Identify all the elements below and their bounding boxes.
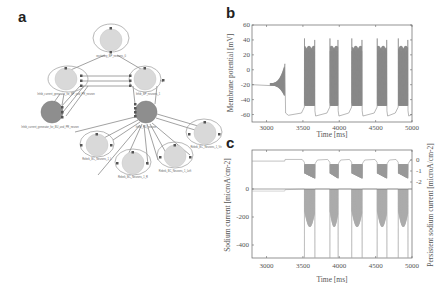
y-tick-label: -200	[236, 213, 249, 221]
x-tick-label: 3500	[296, 262, 311, 270]
y-tick-label: -400	[236, 241, 249, 249]
x-tick-label: 3000	[260, 124, 275, 132]
x-tick-label: 5000	[405, 262, 420, 270]
x-tick-label: 5000	[405, 124, 420, 132]
y-tick-label-right: 0	[416, 156, 420, 164]
x-tick-label: 4000	[332, 124, 347, 132]
y-tick-label: 0	[247, 66, 251, 74]
x-tick-label: 3000	[260, 262, 275, 270]
y-tick-label: 0	[246, 185, 250, 193]
node-label: Inhib_BP_neurons_1	[136, 92, 161, 96]
node-bottom-center	[122, 152, 144, 174]
node-label: Rebek_BC_Neurons_1_Left	[159, 169, 192, 173]
trace-persistent-sodium	[252, 159, 412, 178]
trace-membrane-potential	[252, 38, 412, 116]
node-top	[100, 29, 122, 51]
node-label: Inhib_current_generator_for_BP_and_PR_ne…	[37, 92, 95, 96]
node-far-right	[194, 122, 216, 144]
y-tick-label: 20	[243, 51, 251, 59]
trace-sodium-current	[252, 189, 412, 267]
node-label: Rebek_BC_Neurons_1_R	[118, 175, 148, 179]
y-tick-label: 40	[243, 36, 251, 44]
y-tick-label-right: -1	[416, 167, 422, 175]
network-diagram: excitatory_BP_neurons_0 Inhib_current_ge…	[0, 0, 230, 200]
node-right	[134, 68, 156, 90]
x-tick-label: 3500	[296, 124, 311, 132]
x-axis-label-b: Time [ms]	[316, 130, 347, 139]
x-tick-label: 4500	[369, 262, 384, 270]
y-tick-label: -20	[241, 81, 251, 89]
node-bottom-left	[86, 134, 108, 156]
y-tick-label: -40	[241, 96, 251, 104]
y-axis-label-c-right: Persistent sodium current [microA/cm-2]	[426, 143, 435, 267]
x-axis-label-c: Time [ms]	[316, 275, 347, 284]
plot-frame-c	[252, 150, 412, 258]
node-label: excitatory_BP_neurons_0	[96, 54, 126, 58]
node-label: Rebek_BC_Neurons_1_Ve	[190, 145, 222, 149]
x-tick-label: 4500	[369, 124, 384, 132]
y-tick-label: 60	[243, 21, 251, 29]
node-dark-left	[41, 101, 63, 123]
plot-frame-b	[252, 25, 412, 122]
node-label: Inhib_RU_neuron	[136, 125, 157, 129]
node-label: Inhib_current_generator_for_BU_and_PR_ne…	[21, 125, 79, 129]
node-dark-center	[135, 101, 157, 123]
y-tick-label: -60	[241, 111, 251, 119]
y-tick-label-right: -2	[416, 178, 422, 186]
population-nodes	[55, 29, 216, 174]
node-label: Rebek_BC_Neurons_1_L	[82, 157, 112, 161]
node-bottom-right	[164, 145, 186, 167]
x-tick-label: 4000	[332, 262, 347, 270]
node-left	[55, 68, 77, 90]
